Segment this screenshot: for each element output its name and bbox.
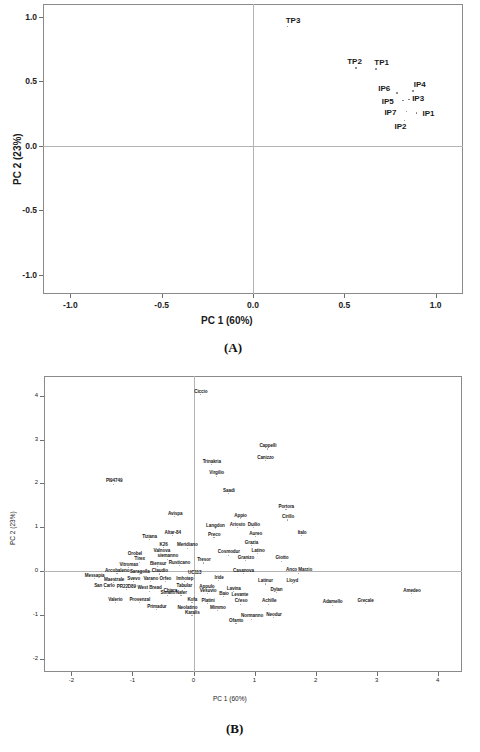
data-point-label: IP6 <box>378 84 390 93</box>
panel-a-pca-scatter: PC 2 (23%) PC 1 (60%) (A) -1.0-0.50.00.5… <box>0 0 480 360</box>
y-axis-tick <box>40 571 44 572</box>
data-point-label: Ofanto <box>229 618 243 623</box>
data-point <box>251 545 252 546</box>
data-point <box>235 623 236 624</box>
data-point-label: Normanno <box>241 613 263 618</box>
data-point-label: Trinakria <box>203 459 221 464</box>
data-point-label: UC113 <box>188 570 202 575</box>
data-point-label: Karalis <box>185 610 200 615</box>
data-point-label: IP1 <box>422 109 434 118</box>
x-axis-tick <box>255 672 256 676</box>
data-point <box>149 591 150 592</box>
data-point <box>104 588 105 589</box>
data-point-label: IP5 <box>382 97 394 106</box>
data-point-label: Orobel <box>128 551 142 556</box>
y-axis-tick <box>40 440 44 441</box>
data-point <box>187 548 188 549</box>
x-axis-tick-label: 1 <box>235 677 275 683</box>
data-point-label: Anco Marzio <box>286 567 312 572</box>
data-point-label: Neodur <box>266 612 281 617</box>
data-point <box>396 92 398 94</box>
panel-b-pca-scatter: PC 2 (23%) PC 1 (60%) (B) -2-10123443210… <box>0 365 480 752</box>
data-point-label: Levante <box>232 592 249 597</box>
data-point-label: PI94749 <box>106 478 122 483</box>
data-point-label: Imhotep <box>176 576 193 581</box>
data-point <box>243 573 244 574</box>
data-point-label: K26 <box>160 542 168 547</box>
data-point <box>184 588 185 589</box>
data-point-label: Italo <box>298 530 307 535</box>
data-point <box>332 605 333 606</box>
data-point <box>355 67 357 69</box>
y-axis-tick <box>39 275 43 276</box>
y-axis-tick <box>40 615 44 616</box>
y-axis-tick-label: 1.0 <box>7 12 37 22</box>
x-axis-tick-label: -1 <box>112 677 152 683</box>
data-point-label: TP3 <box>286 16 301 25</box>
data-point <box>240 518 241 519</box>
x-axis-tick <box>194 672 195 676</box>
data-point-label: Platini <box>202 598 215 603</box>
data-point-label: Casanova <box>233 568 254 573</box>
x-axis-tick-label: 4 <box>418 677 458 683</box>
data-point-label: Grecale <box>357 598 373 603</box>
data-point-label: Cirillo <box>282 514 294 519</box>
data-point-label: Ariosto <box>230 522 245 527</box>
data-point <box>416 112 418 114</box>
y-axis-tick-label: 2 <box>22 479 38 485</box>
data-point-label: Duilio <box>248 522 260 527</box>
x-axis-tick-label: 3 <box>357 677 397 683</box>
data-point <box>375 68 377 70</box>
x-axis-tick <box>71 672 72 676</box>
data-point-label: Avispa <box>168 511 182 516</box>
data-point-label: Aureo <box>249 531 262 536</box>
data-point-label: West Bread <box>137 585 161 590</box>
x-axis-tick <box>344 294 345 298</box>
data-point-label: Tiziana <box>142 534 157 539</box>
x-axis-tick-label: -1.0 <box>50 300 90 310</box>
x-axis-tick <box>70 294 71 298</box>
figure-page: PC 2 (23%) PC 1 (60%) (A) -1.0-0.50.00.5… <box>0 0 480 752</box>
x-axis-tick <box>253 294 254 298</box>
data-point-label: Maestrale <box>104 577 124 582</box>
panel-b-caption: (B) <box>226 721 243 737</box>
panel-b-x-axis-title: PC 1 (60%) <box>213 695 247 702</box>
data-point-label: Achille <box>262 598 276 603</box>
data-point-label: Kofa <box>187 597 197 602</box>
x-axis-tick-label: 1.0 <box>416 300 456 310</box>
data-point-label: TP1 <box>374 58 389 67</box>
data-point <box>139 562 140 563</box>
data-point <box>191 615 192 616</box>
y-axis-tick <box>39 146 43 147</box>
x-axis-tick <box>162 294 163 298</box>
data-point <box>265 460 266 461</box>
data-point-label: Cappelli <box>259 443 276 448</box>
data-point-label: Varano <box>143 576 158 581</box>
panel-a-caption: (A) <box>224 340 242 356</box>
x-axis-tick-label: -2 <box>51 677 91 683</box>
data-point <box>149 539 150 540</box>
data-point-label: Tresor <box>197 557 210 562</box>
y-axis-tick-label: -0.5 <box>7 205 37 215</box>
data-point-label: San Carlo <box>94 583 115 588</box>
x-axis-tick <box>436 294 437 298</box>
data-point-label: IP7 <box>384 108 396 117</box>
y-axis-tick-label: -1.0 <box>7 270 37 280</box>
data-point-label: Canizzo <box>257 455 274 460</box>
data-point-label: IP4 <box>414 80 426 89</box>
data-point-label: Saragolla <box>130 569 150 574</box>
data-point <box>408 99 410 101</box>
data-point-label: Creso <box>235 598 248 603</box>
data-point-label: Mimmo <box>210 605 226 610</box>
data-point-label: Virgilio <box>209 470 224 475</box>
x-axis-tick <box>438 672 439 676</box>
data-point-label: Tirex <box>135 556 145 561</box>
data-point-label: Orfeo <box>160 576 172 581</box>
data-point-label: Meridiano <box>177 542 198 547</box>
data-point <box>265 583 266 584</box>
data-point-label: Adamello <box>323 599 343 604</box>
y-axis-tick-label: -2 <box>22 655 38 661</box>
y-axis-tick-label: 0 <box>22 567 38 573</box>
data-point-label: Nafer <box>176 590 187 595</box>
data-point <box>191 602 192 603</box>
